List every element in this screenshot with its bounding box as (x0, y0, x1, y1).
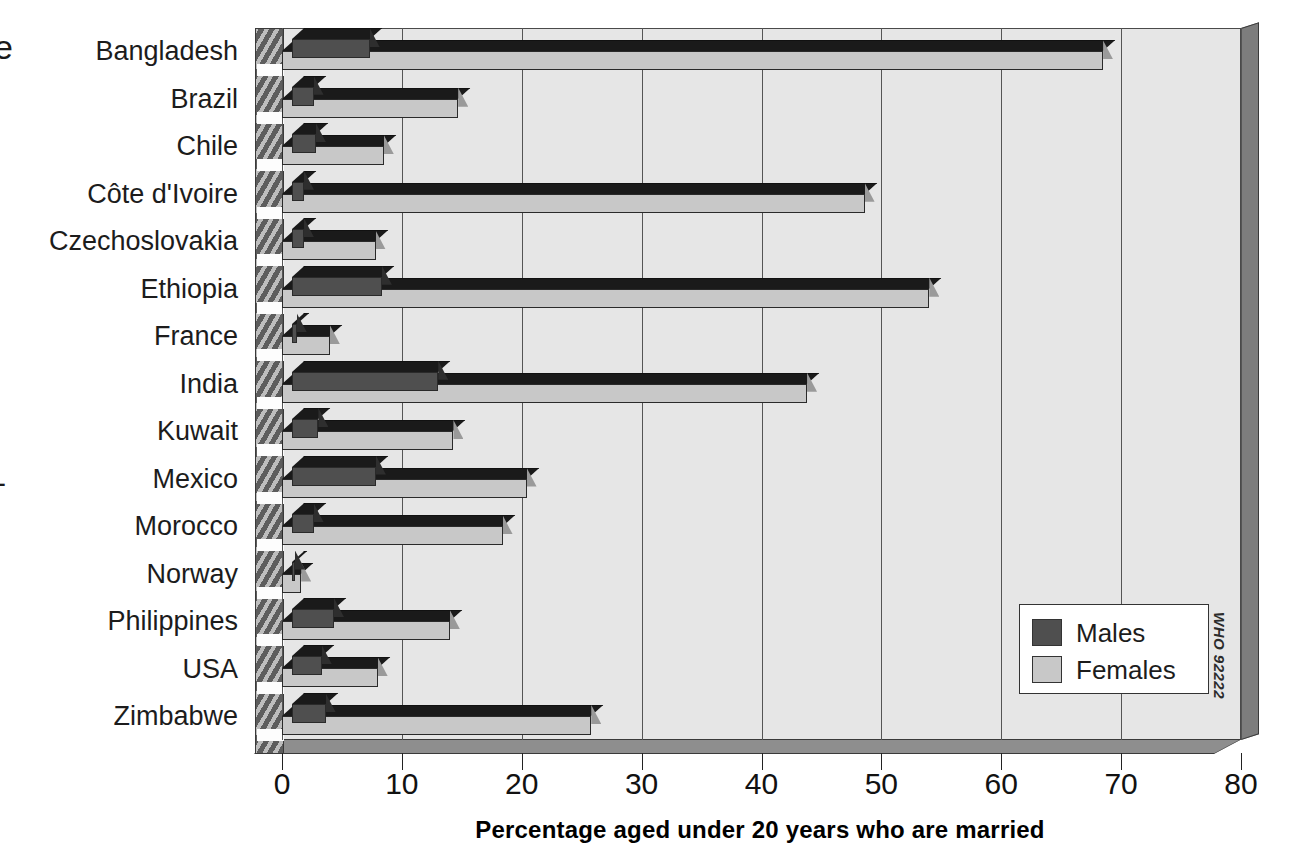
bar-group (255, 550, 1255, 598)
axis-tick-label: 70 (1104, 769, 1137, 799)
category-label: Brazil (170, 86, 238, 113)
axis-tick-label: 0 (274, 769, 291, 799)
bar-males (292, 182, 304, 201)
bar-males (292, 134, 316, 153)
category-label: Mexico (152, 466, 238, 493)
value-axis: 01020304050607080 (255, 753, 1265, 803)
category-label: Chile (176, 133, 238, 160)
bar-group (255, 123, 1255, 171)
category-label: Ethiopia (140, 276, 238, 303)
category-label: Kuwait (157, 418, 238, 445)
axis-tick-label: 40 (745, 769, 778, 799)
category-label: Czechoslovakia (49, 228, 238, 255)
category-label: Bangladesh (95, 38, 238, 65)
category-axis-labels: BangladeshBrazilChileCôte d'IvoireCzecho… (0, 28, 250, 748)
plot-floor-3d-face (254, 739, 1242, 754)
category-label: Côte d'Ivoire (87, 181, 238, 208)
category-label: Zimbabwe (113, 703, 238, 730)
bar-group (255, 75, 1255, 123)
bar-females (282, 194, 865, 213)
bar-females (282, 526, 503, 545)
legend-swatch-females (1032, 656, 1062, 683)
who-credit-text: WHO 92222 (1211, 612, 1228, 699)
bar-group (255, 503, 1255, 551)
bar-group (255, 170, 1255, 218)
axis-tick-label: 80 (1224, 769, 1257, 799)
legend: Males Females (1019, 604, 1209, 694)
bar-group (255, 313, 1255, 361)
axis-tick-label: 60 (985, 769, 1018, 799)
bar-females (282, 51, 1103, 70)
bar-males (292, 609, 334, 628)
bar-males (292, 704, 326, 723)
bar-group (255, 455, 1255, 503)
bar-group (255, 693, 1255, 741)
category-label: India (179, 371, 238, 398)
bar-males (292, 467, 376, 486)
category-label: Norway (146, 561, 238, 588)
axis-tick-label: 30 (625, 769, 658, 799)
category-label: France (154, 323, 238, 350)
bar-males (292, 372, 438, 391)
bar-males (292, 87, 314, 106)
bar-group (255, 218, 1255, 266)
axis-tick-label: 10 (385, 769, 418, 799)
bar-males (292, 277, 382, 296)
category-label: USA (182, 656, 238, 683)
category-label: Philippines (107, 608, 238, 635)
category-label: Morocco (134, 513, 238, 540)
bar-females (282, 336, 330, 355)
bar-males (292, 419, 318, 438)
axis-tick-label: 20 (505, 769, 538, 799)
bar-group (255, 408, 1255, 456)
bar-group (255, 360, 1255, 408)
bar-group (255, 28, 1255, 76)
bar-males (292, 324, 297, 343)
bar-females (282, 716, 591, 735)
axis-title: Percentage aged under 20 years who are m… (255, 816, 1265, 844)
legend-label-females: Females (1076, 657, 1176, 683)
axis-tick-label: 50 (865, 769, 898, 799)
bar-males (292, 656, 322, 675)
bar-males (292, 562, 295, 581)
legend-item-males: Males (1032, 614, 1208, 651)
bar-males (292, 39, 370, 58)
bar-males (292, 229, 304, 248)
legend-swatch-males (1032, 619, 1062, 646)
bar-males (292, 514, 314, 533)
legend-item-females: Females (1032, 651, 1208, 688)
bar-group (255, 265, 1255, 313)
legend-label-males: Males (1076, 620, 1145, 646)
